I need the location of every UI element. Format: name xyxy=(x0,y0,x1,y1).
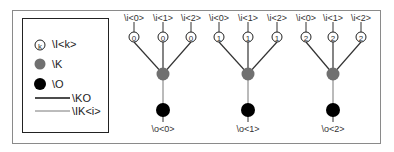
grey-node xyxy=(157,68,170,81)
leaf-label: \i<2> xyxy=(181,13,201,23)
grey-node xyxy=(327,68,340,81)
leaf-value: 0 xyxy=(189,34,194,43)
tree-diagram: k \i<0> \i<1> \i<2> 0 0 0 \o<0> xyxy=(0,0,394,152)
leaf-label: \i<2> xyxy=(351,13,371,23)
output-label: \o<0> xyxy=(151,124,174,134)
leaf-value: 1 xyxy=(275,34,280,43)
grey-node xyxy=(242,68,255,81)
leaf-label: \i<1> xyxy=(323,13,343,23)
leaf-label: \i<2> xyxy=(267,13,287,23)
leaf-value: 0 xyxy=(132,34,137,43)
black-node xyxy=(326,103,340,117)
leaf-value: 2 xyxy=(304,34,309,43)
tree-2: \i<0> \i<1> \i<2> 2 2 2 \o<2> xyxy=(296,13,371,134)
black-node xyxy=(241,103,255,117)
leaf-label: \i<0> xyxy=(296,13,316,23)
output-label: \o<1> xyxy=(236,124,259,134)
leaf-label: \i<1> xyxy=(238,13,258,23)
leaf-label: \i<1> xyxy=(153,13,173,23)
leaf-value: 0 xyxy=(161,34,166,43)
leaf-label: \i<0> xyxy=(124,13,144,23)
tree-0: \i<0> \i<1> \i<2> 0 0 0 \o<0> xyxy=(124,13,201,134)
tree-1: \i<0> \i<1> \i<2> 1 1 1 \o<1> xyxy=(209,13,287,134)
black-node-icon xyxy=(34,78,46,90)
leaf-label: \i<0> xyxy=(209,13,229,23)
leaf-value: 1 xyxy=(217,34,222,43)
leaf-value: 2 xyxy=(331,34,336,43)
grey-node-icon xyxy=(35,59,46,70)
circled-k-icon: k xyxy=(35,40,45,51)
leaf-value: 2 xyxy=(359,34,364,43)
black-node xyxy=(156,103,170,117)
leaf-value: 1 xyxy=(246,34,251,43)
output-label: \o<2> xyxy=(321,124,344,134)
